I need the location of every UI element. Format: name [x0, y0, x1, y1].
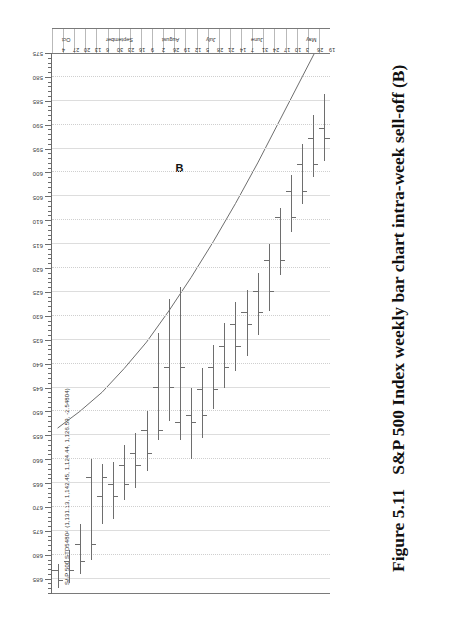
- value-tick-minor: [48, 67, 52, 68]
- ohlc-bar-range: [68, 550, 69, 583]
- value-tick-minor: [48, 354, 52, 355]
- gridline: [52, 75, 330, 76]
- value-tick-minor: [48, 320, 52, 321]
- value-tick-major: [45, 124, 52, 125]
- ohlc-bar-range: [202, 368, 203, 437]
- value-tick-minor: [48, 201, 52, 202]
- ohlc-bar-close-tick: [313, 164, 318, 165]
- ohlc-bar-close-tick: [113, 496, 118, 497]
- value-tick-minor: [48, 573, 52, 574]
- date-axis-day-label: 16: [139, 46, 145, 52]
- value-tick-minor: [48, 258, 52, 259]
- value-tick-major: [45, 268, 52, 269]
- value-tick-label: 615: [32, 242, 43, 248]
- value-tick-minor: [48, 210, 52, 211]
- figure-page: 6856806756706656606556506456406356306256…: [0, 0, 459, 623]
- date-axis-day-label: 4: [61, 46, 64, 52]
- gridline: [52, 147, 330, 148]
- value-tick-minor: [48, 454, 52, 455]
- value-tick-major: [45, 411, 52, 412]
- value-tick-minor: [48, 349, 52, 350]
- ohlc-bar-open-tick: [130, 453, 135, 454]
- value-tick-minor: [48, 344, 52, 345]
- value-tick-minor: [48, 105, 52, 106]
- ohlc-bar-range: [324, 93, 325, 160]
- gridline: [52, 267, 330, 268]
- date-axis-month-label: July: [206, 36, 216, 42]
- value-tick-minor: [48, 444, 52, 445]
- value-tick-minor: [48, 487, 52, 488]
- value-tick-minor: [48, 330, 52, 331]
- date-axis-day-label: 26: [317, 46, 323, 52]
- ohlc-bar-close-tick: [279, 259, 284, 260]
- value-tick-label: 580: [32, 75, 43, 81]
- value-tick-minor: [48, 440, 52, 441]
- caption-text: S&P 500 Index weekly bar chart intra-wee…: [388, 64, 408, 474]
- rotated-figure-wrapper: 6856806756706656606556506456406356306256…: [20, 12, 440, 612]
- ohlc-bar-open-tick: [241, 312, 246, 313]
- date-axis-day-label: 27: [72, 46, 78, 52]
- value-tick-minor: [48, 153, 52, 154]
- value-tick-minor: [48, 287, 52, 288]
- value-tick-minor: [48, 263, 52, 264]
- value-tick-minor: [48, 158, 52, 159]
- value-tick-minor: [48, 296, 52, 297]
- trendline-overlay: [52, 54, 330, 593]
- value-tick-label: 675: [32, 529, 43, 535]
- value-tick-minor: [48, 282, 52, 283]
- chart-container: 6856806756706656606556506456406356306256…: [30, 28, 368, 594]
- gridline: [52, 219, 330, 220]
- date-axis-day-label: 5: [206, 46, 209, 52]
- value-tick-major: [45, 459, 52, 460]
- date-axis-month-label: May: [306, 36, 316, 42]
- value-tick-label: 680: [32, 553, 43, 559]
- ohlc-bar-open-tick: [141, 429, 146, 430]
- ohlc-bar-range: [291, 174, 292, 231]
- value-tick-major: [45, 53, 52, 54]
- ohlc-bar-range: [57, 564, 58, 588]
- value-tick-minor: [48, 91, 52, 92]
- value-tick-minor: [48, 215, 52, 216]
- value-tick-minor: [48, 406, 52, 407]
- value-tick-minor: [48, 511, 52, 512]
- value-tick-minor: [48, 72, 52, 73]
- value-tick-minor: [48, 416, 52, 417]
- ohlc-bar-close-tick: [168, 386, 173, 387]
- gridline: [52, 482, 330, 483]
- value-tick-minor: [48, 239, 52, 240]
- ohlc-bar-range: [113, 461, 114, 518]
- value-tick-minor: [48, 143, 52, 144]
- date-axis-day-label: 26: [172, 46, 178, 52]
- ohlc-bar-close-tick: [302, 190, 307, 191]
- ohlc-bar-open-tick: [96, 496, 101, 497]
- value-tick-minor: [48, 229, 52, 230]
- ohlc-bar-open-tick: [63, 560, 68, 561]
- value-tick-minor: [48, 535, 52, 536]
- date-axis-day-label: 19: [328, 46, 334, 52]
- ohlc-bar-open-tick: [163, 367, 168, 368]
- value-tick-label: 585: [32, 99, 43, 105]
- value-tick-minor: [48, 559, 52, 560]
- value-tick-minor: [48, 139, 52, 140]
- value-tick-label: 655: [32, 433, 43, 439]
- trendline-path: [57, 54, 324, 428]
- ohlc-bar-range: [168, 299, 169, 421]
- value-tick-minor: [48, 463, 52, 464]
- ohlc-bar-close-tick: [90, 544, 95, 545]
- value-tick-minor: [48, 272, 52, 273]
- value-tick-major: [45, 363, 52, 364]
- ohlc-bar-open-tick: [252, 290, 257, 291]
- value-tick-minor: [48, 392, 52, 393]
- date-axis-day-label: 28: [217, 46, 223, 52]
- ohlc-bar-close-tick: [57, 580, 62, 581]
- value-tick-minor: [48, 167, 52, 168]
- value-tick-minor: [48, 516, 52, 517]
- gridline: [52, 529, 330, 530]
- ohlc-bar-open-tick: [152, 386, 157, 387]
- value-tick-major: [45, 339, 52, 340]
- value-tick-minor: [48, 334, 52, 335]
- value-tick-minor: [48, 205, 52, 206]
- date-axis-day-label: 10: [295, 46, 301, 52]
- value-tick-minor: [48, 502, 52, 503]
- date-axis-day-label: 12: [195, 46, 201, 52]
